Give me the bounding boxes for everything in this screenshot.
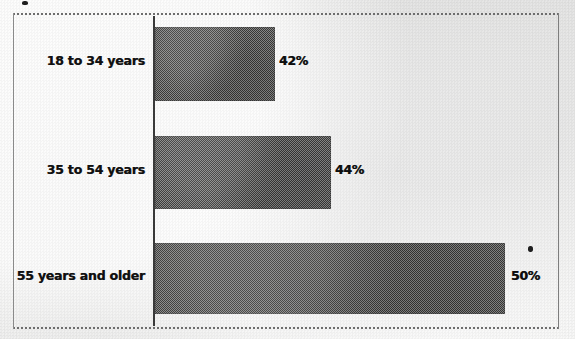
bar-value-label-18-to-34: 42% — [279, 53, 308, 68]
category-axis-line — [153, 16, 155, 326]
chart-frame-right-border — [558, 13, 559, 329]
chart-frame-left-border — [13, 13, 14, 329]
category-label-35-to-54: 35 to 54 years — [0, 162, 145, 177]
bar-row: 18 to 34 years 42% — [0, 27, 575, 101]
category-label-55-and-older: 55 years and older — [0, 268, 145, 283]
bar-row: 35 to 54 years 44% — [0, 136, 575, 209]
scanned-chart-page: 18 to 34 years 42% 35 to 54 years 44% 55… — [0, 0, 575, 339]
bar-value-label-55-and-older: 50% — [511, 268, 540, 283]
bar-18-to-34[interactable] — [155, 27, 275, 101]
bar-row: 55 years and older 50% — [0, 243, 575, 314]
category-label-18-to-34: 18 to 34 years — [0, 53, 145, 68]
chart-frame-bottom-border — [13, 327, 559, 329]
chart-frame-top-border — [13, 13, 559, 15]
plot-area: 18 to 34 years 42% 35 to 54 years 44% 55… — [0, 0, 575, 339]
bar-55-and-older[interactable] — [155, 243, 505, 314]
bar-value-label-35-to-54: 44% — [335, 162, 364, 177]
bar-35-to-54[interactable] — [155, 136, 331, 209]
